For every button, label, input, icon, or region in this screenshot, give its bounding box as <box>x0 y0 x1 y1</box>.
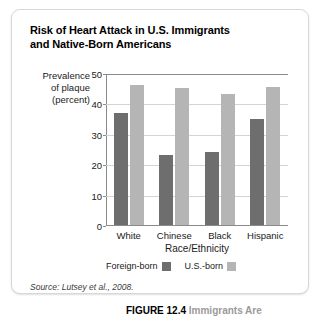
y-tick-label: 0 <box>97 221 102 232</box>
y-tick-mark <box>103 104 106 105</box>
figure-caption: FIGURE 12.4 Immigrants Are <box>126 305 262 316</box>
x-tick-label: White <box>117 230 141 241</box>
x-axis-title: Race/Ethnicity <box>106 243 288 254</box>
y-tick-mark <box>103 74 106 75</box>
chart-legend: Foreign-bornU.S.-born <box>106 261 302 271</box>
y-tick-mark <box>103 165 106 166</box>
source-label: Source: <box>30 282 59 292</box>
x-tick-label: Black <box>208 230 231 241</box>
figure-caption-text: Immigrants Are <box>189 305 262 316</box>
chart-title-line-2: and Native-Born Americans <box>30 37 288 51</box>
bar-white-u-s-born <box>130 85 144 225</box>
y-tick-label: 10 <box>91 190 102 201</box>
y-tick-label: 50 <box>91 69 102 80</box>
legend-label: Foreign-born <box>106 261 158 271</box>
bar-hispanic-foreign-born <box>250 119 264 225</box>
y-tick-label: 40 <box>91 99 102 110</box>
gridline <box>106 74 288 75</box>
bar-white-foreign-born <box>114 113 128 225</box>
y-tick-label: 20 <box>91 160 102 171</box>
legend-entry: Foreign-born <box>106 261 171 271</box>
chart-title-line-1: Risk of Heart Attack in U.S. Immigrants <box>30 23 288 37</box>
source-text: Lutsey et al., 2008. <box>62 282 134 292</box>
bar-chinese-u-s-born <box>175 88 189 225</box>
legend-entry: U.S.-born <box>185 261 237 271</box>
legend-label: U.S.-born <box>185 261 224 271</box>
chart-title: Risk of Heart Attack in U.S. Immigrants … <box>30 23 288 51</box>
bar-hispanic-u-s-born <box>266 87 280 225</box>
y-tick-mark <box>103 196 106 197</box>
figure-card: Risk of Heart Attack in U.S. Immigrants … <box>11 9 309 294</box>
bar-black-u-s-born <box>221 94 235 225</box>
y-axis-title-line-2: of plaque <box>24 82 90 94</box>
source-note: Source: Lutsey et al., 2008. <box>30 282 134 292</box>
y-tick-mark <box>103 135 106 136</box>
legend-swatch <box>162 262 171 271</box>
x-tick-label: Hispanic <box>247 230 283 241</box>
bar-chinese-foreign-born <box>159 155 173 225</box>
y-tick-mark <box>103 226 106 227</box>
bar-black-foreign-born <box>205 152 219 225</box>
figure-number: FIGURE 12.4 <box>126 305 186 316</box>
plot-area: 01020304050 WhiteChineseBlackHispanic <box>106 74 288 226</box>
y-axis-title: Prevalence of plaque (percent) <box>24 70 90 106</box>
y-axis-title-line-1: Prevalence <box>24 70 90 82</box>
legend-swatch <box>227 262 236 271</box>
y-axis-title-line-3: (percent) <box>24 94 90 106</box>
x-tick-label: Chinese <box>157 230 192 241</box>
y-tick-label: 30 <box>91 129 102 140</box>
